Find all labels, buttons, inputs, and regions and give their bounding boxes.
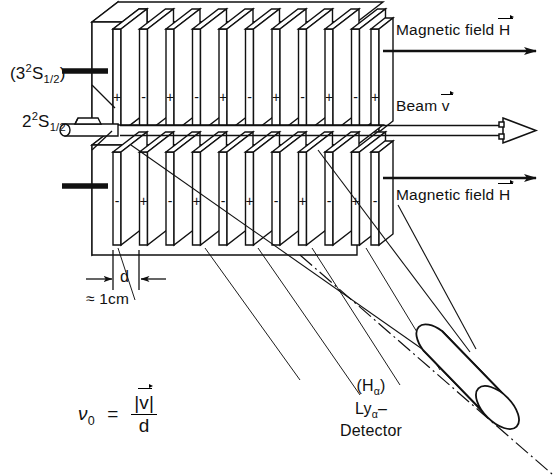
magnetic-field-top-vector: H [499, 21, 510, 39]
svg-text:-: - [141, 89, 146, 105]
svg-text:+: + [219, 89, 227, 105]
svg-text:-: - [373, 193, 378, 209]
state-3s-prefix: (3 [10, 64, 26, 83]
gap-value-text: ≈ 1cm [86, 290, 129, 307]
detector-ly-core: Ly [355, 400, 372, 417]
gap-value-label: ≈ 1cm [86, 290, 129, 308]
beam-vector: v [442, 97, 450, 115]
upper-plate-row [113, 9, 393, 132]
lower-plate-row [113, 132, 393, 245]
formula-bar-right: | [149, 392, 154, 413]
svg-text:+: + [351, 193, 359, 209]
formula-nu-sub: 0 [88, 414, 95, 428]
svg-text:+: + [139, 193, 147, 209]
svg-text:-: - [300, 89, 305, 105]
plate-projection-lines [118, 248, 440, 395]
magnetic-field-label-bottom: Magnetic field H [396, 186, 510, 204]
magnetic-field-top-text: Magnetic field [396, 21, 494, 38]
svg-text:+: + [325, 89, 333, 105]
detector-ly-dash: – [378, 400, 387, 417]
svg-text:-: - [274, 193, 279, 209]
magnetic-field-bottom-text: Magnetic field [396, 186, 494, 203]
svg-text:+: + [166, 89, 174, 105]
formula-fraction: |v| d [131, 392, 157, 438]
svg-text:-: - [194, 89, 199, 105]
svg-text:-: - [327, 193, 332, 209]
formula-equals: = [107, 403, 118, 424]
state-3s-sub: 1/2 [44, 73, 60, 85]
svg-text:+: + [371, 89, 379, 105]
detector-lyalpha-line: Lyα– [340, 399, 402, 422]
detector-halpha-open: (H [356, 377, 373, 394]
gap-symbol-text: d [120, 268, 129, 285]
svg-text:-: - [221, 193, 226, 209]
state-3s-suffix: ) [60, 64, 66, 83]
svg-text:+: + [192, 193, 200, 209]
svg-text:+: + [272, 89, 280, 105]
magnetic-field-label-top: Magnetic field H [396, 21, 510, 39]
beam-label: Beam v [396, 97, 450, 115]
formula-denominator: d [131, 415, 157, 438]
formula-v-vector: v [139, 392, 149, 414]
detector-word-line: Detector [340, 421, 402, 441]
state-3s-core: S [32, 64, 44, 83]
state-2s-core: S [38, 112, 50, 131]
formula-numerator: |v| [131, 392, 157, 415]
state-2s-prefix: 2 [22, 112, 32, 131]
detector-label: (Hα) Lyα– Detector [340, 376, 402, 442]
state-label-3s: (32S1/2) [10, 62, 66, 85]
svg-text:+: + [245, 193, 253, 209]
magnetic-field-bottom-vector: H [499, 186, 510, 204]
gap-symbol-label: d [120, 268, 129, 286]
detector-halpha-close: ) [380, 377, 386, 394]
formula-nu: ν [78, 403, 88, 424]
beam-text: Beam [396, 97, 437, 114]
figure-canvas: + - + - + - + - + - + - + - + - + - + - … [0, 0, 554, 476]
state-2s-sub: 1/2 [50, 121, 66, 133]
state-label-2s: 22S1/2 [22, 110, 66, 133]
velocity-formula: ν0 = |v| d [78, 392, 157, 438]
detector-halpha-line: (Hα) [340, 376, 402, 399]
svg-text:+: + [113, 89, 121, 105]
svg-text:-: - [247, 89, 252, 105]
svg-text:-: - [168, 193, 173, 209]
svg-text:+: + [298, 193, 306, 209]
svg-text:-: - [353, 89, 358, 105]
svg-text:-: - [115, 193, 120, 209]
